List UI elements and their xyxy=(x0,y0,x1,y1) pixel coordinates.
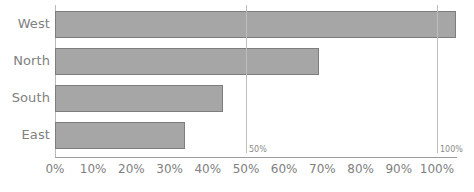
reference-line-100 xyxy=(437,5,438,153)
category-label-west: West xyxy=(0,17,50,31)
x-tick-100: 100% xyxy=(420,162,454,176)
category-label-east: East xyxy=(0,128,50,142)
bar-west[interactable] xyxy=(55,11,456,38)
category-label-north: North xyxy=(0,54,50,68)
x-tick-80: 80% xyxy=(347,162,374,176)
x-axis-baseline xyxy=(55,157,457,158)
bar-chart: West North South East 50% 100% 0%10%20%3… xyxy=(0,0,474,192)
x-tick-10: 10% xyxy=(80,162,107,176)
reference-label-50: 50% xyxy=(249,145,267,154)
bar-north[interactable] xyxy=(55,48,319,75)
x-tick-0: 0% xyxy=(45,162,64,176)
x-tick-50: 50% xyxy=(233,162,260,176)
x-tick-90: 90% xyxy=(385,162,412,176)
x-tick-20: 20% xyxy=(118,162,145,176)
category-label-south: South xyxy=(0,91,50,105)
x-tick-70: 70% xyxy=(309,162,336,176)
reference-label-100: 100% xyxy=(440,145,463,154)
x-tick-60: 60% xyxy=(271,162,298,176)
x-tick-30: 30% xyxy=(156,162,183,176)
x-tick-40: 40% xyxy=(194,162,221,176)
reference-line-50 xyxy=(246,5,247,153)
bar-east[interactable] xyxy=(55,122,185,149)
bar-south[interactable] xyxy=(55,85,223,112)
